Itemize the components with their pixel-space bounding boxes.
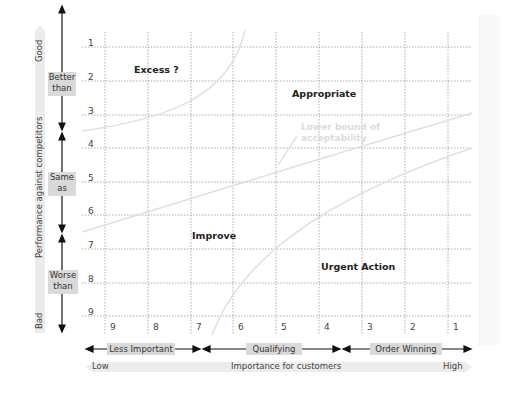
x-low-label: Low: [92, 361, 109, 371]
x-band-qualifying: Qualifying: [246, 343, 302, 355]
y-tick-7: 7: [88, 240, 94, 250]
x-tick-8: 8: [153, 322, 159, 332]
zone-excess: Excess ?: [134, 64, 179, 75]
band-line: Same: [48, 172, 76, 183]
band-line: Better: [48, 72, 76, 83]
matrix-grid: [0, 0, 509, 393]
lower-bound-line-2: acceptability: [301, 133, 380, 144]
y-band-same-as: Same as: [48, 172, 76, 196]
lower-bound-line-1: Lower bound of: [301, 122, 380, 133]
band-line: than: [48, 281, 78, 292]
y-tick-1: 1: [88, 38, 94, 48]
y-good-label: Good: [34, 40, 44, 62]
x-tick-7: 7: [196, 322, 202, 332]
y-bad-label: Bad: [34, 313, 44, 329]
x-tick-3: 3: [367, 322, 373, 332]
x-tick-6: 6: [238, 322, 244, 332]
y-tick-6: 6: [88, 206, 94, 216]
y-band-better-than: Better than: [48, 72, 76, 96]
y-tick-9: 9: [88, 307, 94, 317]
x-tick-4: 4: [324, 322, 330, 332]
x-band-order-winning: Order Winning: [370, 343, 442, 355]
band-line: Worse: [48, 270, 78, 281]
x-tick-2: 2: [410, 322, 416, 332]
y-band-worse-than: Worse than: [48, 270, 78, 294]
band-line: as: [48, 183, 76, 194]
y-axis-title: Performance against competitors: [34, 116, 44, 258]
band-line: than: [48, 83, 76, 94]
y-tick-2: 2: [88, 72, 94, 82]
zone-urgent-action: Urgent Action: [321, 261, 395, 272]
x-high-label: High: [443, 361, 463, 371]
zone-improve: Improve: [192, 230, 236, 241]
x-band-less-important: Less Important: [107, 343, 175, 355]
y-tick-8: 8: [88, 274, 94, 284]
x-axis-title: Importance for customers: [231, 361, 341, 371]
lower-bound-label: Lower bound of acceptability: [301, 122, 380, 144]
y-tick-4: 4: [88, 139, 94, 149]
x-tick-9: 9: [110, 322, 116, 332]
y-tick-5: 5: [88, 173, 94, 183]
y-tick-3: 3: [88, 106, 94, 116]
zone-appropriate: Appropriate: [292, 88, 356, 99]
x-tick-1: 1: [453, 322, 459, 332]
x-tick-5: 5: [281, 322, 287, 332]
